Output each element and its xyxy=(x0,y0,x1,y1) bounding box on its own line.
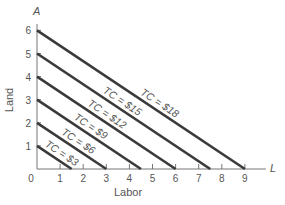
y-tick-label: 2 xyxy=(25,118,31,129)
y-tick-label: 5 xyxy=(25,49,31,60)
y-tick-label: 6 xyxy=(25,25,31,36)
x-tick-label: 9 xyxy=(242,173,248,184)
x-axis-symbol: L xyxy=(270,162,276,174)
y-axis-symbol: A xyxy=(32,5,40,17)
x-axis-label: Labor xyxy=(114,186,142,198)
y-tick-label: 4 xyxy=(25,72,31,83)
y-tick-label: 1 xyxy=(25,141,31,152)
x-tick-label: 0 xyxy=(28,173,34,184)
x-tick-label: 8 xyxy=(219,173,225,184)
isocost-line xyxy=(37,30,245,169)
y-axis-label: Land xyxy=(3,88,15,112)
isocost-chart: 0123456789 123456 TC = $3TC = $6TC = $9T… xyxy=(0,0,285,205)
x-tick-label: 4 xyxy=(127,173,133,184)
x-tick-label: 3 xyxy=(104,173,110,184)
y-ticks: 123456 xyxy=(25,25,41,151)
x-tick-label: 2 xyxy=(80,173,86,184)
isocost-lines xyxy=(37,30,245,169)
x-tick-label: 1 xyxy=(57,173,63,184)
x-tick-label: 6 xyxy=(173,173,179,184)
x-tick-label: 7 xyxy=(196,173,202,184)
y-tick-label: 3 xyxy=(25,95,31,106)
x-tick-label: 5 xyxy=(150,173,156,184)
